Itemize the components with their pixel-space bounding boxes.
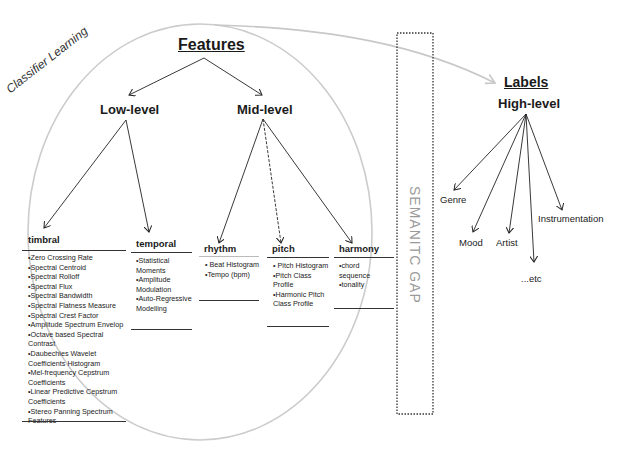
list-item: •Spectral Flux	[28, 282, 128, 292]
list-item: •Mel-frequency Cepstrum Coefficients	[28, 368, 128, 387]
mid-level-label: Mid-level	[237, 102, 293, 117]
label-instrumentation: Instrumentation	[538, 213, 603, 224]
list-item: •Amplitude Modulation	[136, 275, 192, 294]
rhythm-top-rule	[199, 256, 259, 257]
category-pitch: pitch	[272, 243, 295, 254]
arrow-high-instrumentation	[526, 114, 562, 210]
list-item: •Pitch Class Profile	[273, 271, 331, 290]
labels-title: Labels	[504, 74, 548, 90]
pitch-bottom-rule	[267, 326, 329, 327]
arrow-low-temporal	[126, 120, 149, 232]
label-genre: Genre	[440, 194, 466, 205]
list-item: • Beat Histogram	[205, 260, 263, 270]
list-item: •Octave based Spectral Contrast	[28, 330, 128, 349]
category-harmony: harmony	[339, 243, 379, 254]
list-item: •tonality	[339, 280, 389, 290]
high-level-label: High-level	[498, 96, 560, 111]
features-to-labels-arrow	[215, 25, 495, 83]
list-item: •Daubechies Wavelet Coefficients Histogr…	[28, 349, 128, 368]
list-item: •Auto-Regressive Modelling	[136, 294, 192, 313]
list-item: •Zero Crossing Rate	[28, 253, 128, 263]
arrow-high-etc	[526, 114, 534, 262]
list-item: •Linear Predictive Cepstrum Coefficients	[28, 387, 128, 406]
rhythm-bottom-rule	[199, 300, 259, 301]
list-item: •Amplitude Spectrum Envelop	[28, 320, 128, 330]
list-item: •Harmonic Pitch Class Profile	[273, 290, 331, 309]
arrow-mid-harmony	[263, 119, 352, 243]
harmony-bottom-rule	[334, 308, 394, 309]
arrow-low-timbral	[44, 120, 126, 228]
list-item: •Spectral Crest Factor	[28, 311, 128, 321]
semantic-gap-label: SEMANITC GAP	[403, 160, 427, 330]
pitch-list: • Pitch Histogram •Pitch Class Profile •…	[273, 261, 331, 309]
temporal-list: •Statistical Moments •Amplitude Modulati…	[136, 256, 192, 314]
timbral-list: •Zero Crossing Rate •Spectral Centroid •…	[28, 253, 128, 426]
list-item: • Pitch Histogram	[273, 261, 331, 271]
arrow-mid-rhythm	[219, 119, 263, 243]
list-item: •chord sequence	[339, 261, 389, 280]
timbral-top-rule	[22, 250, 126, 251]
harmony-top-rule	[334, 257, 394, 258]
category-timbral: timbral	[28, 234, 60, 245]
label-artist: Artist	[496, 237, 518, 248]
arrow-features-mid	[204, 58, 262, 95]
list-item: •Stereo Panning Spectrum Features	[28, 407, 128, 426]
low-level-label: Low-level	[100, 102, 159, 117]
label-mood: Mood	[459, 237, 483, 248]
harmony-list: •chord sequence •tonality	[339, 261, 389, 290]
list-item: •Spectral Centroid	[28, 263, 128, 273]
list-item: •Spectral Flatness Measure	[28, 301, 128, 311]
label-etc: ...etc	[521, 273, 542, 284]
arrow-high-genre	[454, 114, 526, 190]
list-item: •Tempo (bpm)	[205, 270, 263, 280]
pitch-top-rule	[267, 257, 329, 258]
arrow-features-low	[129, 58, 204, 95]
timbral-bottom-rule	[22, 421, 126, 422]
list-item: •Spectral Bandwidth	[28, 291, 128, 301]
list-item: •Statistical Moments	[136, 256, 192, 275]
arrow-high-mood	[473, 114, 526, 232]
features-title: Features	[178, 36, 245, 54]
category-rhythm: rhythm	[204, 243, 236, 254]
temporal-top-rule	[131, 252, 192, 253]
arrow-mid-pitch	[263, 119, 281, 243]
temporal-bottom-rule	[131, 329, 192, 330]
category-temporal: temporal	[136, 238, 176, 249]
list-item: •Spectral Rolloff	[28, 272, 128, 282]
rhythm-list: • Beat Histogram •Tempo (bpm)	[205, 260, 263, 279]
